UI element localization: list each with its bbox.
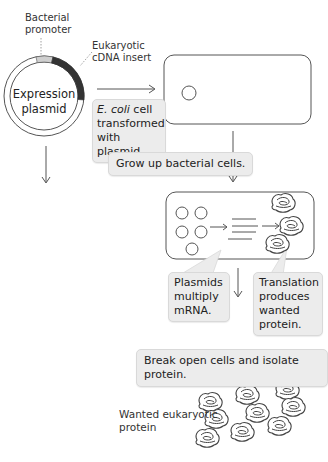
bacterial-cell-icon	[164, 55, 311, 124]
arrow-down-icon	[42, 146, 50, 183]
protein-icons-in-cell	[266, 194, 303, 254]
callout-line: transformed	[97, 117, 161, 131]
callout-line: mRNA.	[174, 304, 224, 318]
diagram-graphics	[0, 0, 328, 462]
callout-line: produces	[259, 290, 317, 304]
callout-line: Translation	[259, 276, 317, 290]
label-line: cDNA insert	[92, 52, 151, 64]
label-line: Bacterial	[25, 12, 71, 24]
translation-callout: Translation produces wanted protein.	[253, 272, 323, 336]
plasmid-label: Expression plasmid	[12, 87, 76, 117]
eukaryotic-insert-label: Eukaryotic cDNA insert	[92, 40, 151, 64]
grow-callout: Grow up bacterial cells.	[108, 152, 253, 176]
insert-leader-line	[80, 52, 92, 66]
callout-line: wanted	[259, 304, 317, 318]
label-line: Expression	[12, 87, 76, 102]
label-line: plasmid	[12, 102, 76, 117]
label-line: protein	[119, 421, 218, 434]
callout-line: multiply	[174, 290, 224, 304]
callout-text: Grow up bacterial cells.	[116, 157, 245, 170]
label-line: Wanted eukaryotic	[119, 408, 218, 421]
arrow-down-icon	[234, 268, 242, 297]
callout-line: protein.	[259, 318, 317, 332]
wanted-protein-label: Wanted eukaryotic protein	[119, 408, 218, 434]
callout-text: Break open cells and isolate protein.	[144, 354, 299, 381]
ecoli-text: E. coli	[97, 103, 130, 116]
label-line: Eukaryotic	[92, 40, 151, 52]
arrow-right-icon	[97, 85, 155, 93]
callout-line: Plasmids	[174, 276, 224, 290]
cell-text: cell	[130, 103, 152, 116]
label-line: promoter	[25, 24, 71, 36]
break-open-callout: Break open cells and isolate protein.	[136, 349, 328, 387]
plasmids-multiply-callout: Plasmids multiply mRNA.	[168, 272, 230, 322]
bacterial-promoter-label: Bacterial promoter	[25, 12, 71, 36]
